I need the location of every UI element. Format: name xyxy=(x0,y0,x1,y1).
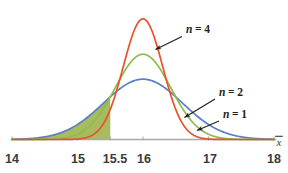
density-curves xyxy=(12,19,274,140)
tick-label-14: 14 xyxy=(5,152,19,166)
label-n-2-rest: = 2 xyxy=(228,86,243,98)
label-n-1: n= 1 xyxy=(223,108,247,120)
annotation-arrows xyxy=(156,37,220,131)
tick-label-15: 15 xyxy=(71,152,85,166)
label-n-1-var: n xyxy=(223,108,229,120)
axis-label-x-bar: x xyxy=(275,136,283,148)
axis-label-x-bar-text: x xyxy=(276,136,282,148)
label-n-2-var: n xyxy=(219,86,225,98)
label-n-4-rest: = 4 xyxy=(195,23,210,35)
sampling-distribution-figure: n= 4 n= 2 n= 1 14 15 15.5 16 17 18 x xyxy=(0,0,288,173)
arrow-to-n-4-curve xyxy=(156,37,183,50)
tick-label-16: 16 xyxy=(137,152,151,166)
tick-label-18: 18 xyxy=(267,152,281,166)
label-n-4: n= 4 xyxy=(186,23,210,35)
label-n-1-rest: = 1 xyxy=(232,108,247,120)
label-n-2: n= 2 xyxy=(219,86,243,98)
tick-label-15-5: 15.5 xyxy=(103,152,127,166)
chart-canvas: n= 4 n= 2 n= 1 14 15 15.5 16 17 18 x xyxy=(0,0,288,173)
label-n-4-var: n xyxy=(186,23,192,35)
tick-label-17: 17 xyxy=(203,152,217,166)
